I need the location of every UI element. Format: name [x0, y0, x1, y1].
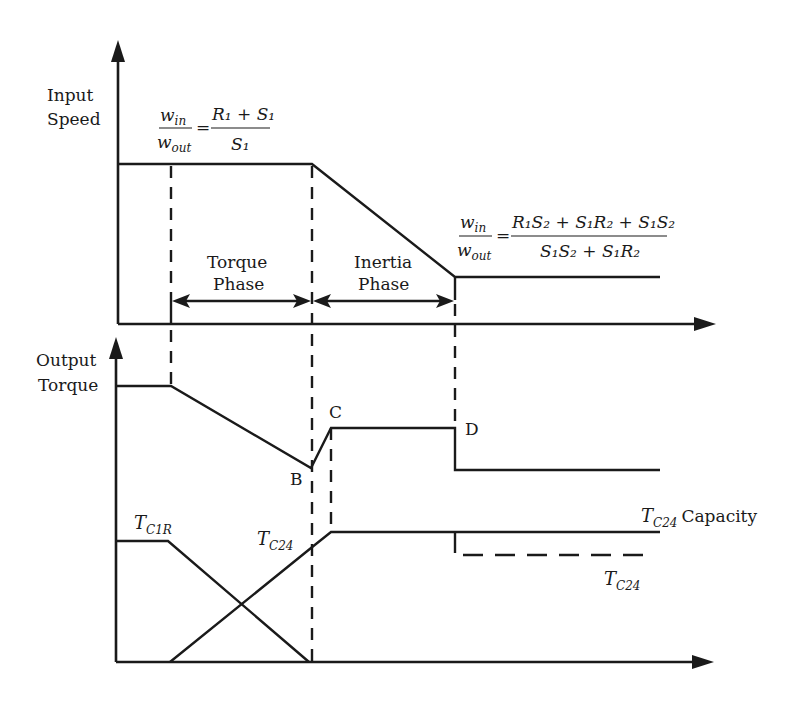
tc1r-label: TC1R	[134, 512, 172, 537]
inertia-phase-label-line2: Phase	[358, 274, 409, 294]
tc24-capacity-label: TC24Capacity	[641, 505, 757, 530]
svg-text:S₁S₂ + S₁R₂: S₁S₂ + S₁R₂	[540, 241, 640, 261]
svg-text:R₁ + S₁: R₁ + S₁	[211, 104, 275, 124]
torque-axis-label-line1: Output	[36, 350, 97, 370]
tc24-capacity-curve	[170, 532, 660, 662]
bottom-panel: Output Torque B C D TC1R TC24 TC24Capaci…	[36, 337, 757, 669]
svg-text:win: win	[160, 105, 186, 128]
shift-diagram: Input Speed win wout = R₁ + S₁ S₁ win wo…	[0, 0, 792, 701]
torque-phase-label-line1: Torque	[207, 252, 267, 272]
torque-axis-label-line2: Torque	[38, 375, 98, 395]
inertia-phase-arrow	[313, 294, 454, 308]
svg-text:win: win	[460, 212, 486, 235]
svg-text:=: =	[196, 117, 210, 137]
y-axis-arrow-icon	[111, 40, 125, 62]
ratio-after-formula: win wout = R₁S₂ + S₁R₂ + S₁S₂ S₁S₂ + S₁R…	[457, 212, 675, 263]
svg-text:wout: wout	[157, 132, 192, 155]
point-d-label: D	[465, 419, 479, 439]
output-torque-curve	[116, 386, 660, 470]
inertia-phase-label-line1: Inertia	[354, 252, 412, 272]
speed-axis-label-line2: Speed	[47, 109, 101, 129]
svg-text:R₁S₂ + S₁R₂ + S₁S₂: R₁S₂ + S₁R₂ + S₁S₂	[511, 212, 675, 232]
torque-phase-arrow	[172, 294, 311, 308]
torque-phase-label-line2: Phase	[213, 274, 264, 294]
ratio-before-formula: win wout = R₁ + S₁ S₁	[157, 104, 275, 155]
point-b-label: B	[290, 469, 303, 489]
svg-text:=: =	[496, 225, 510, 245]
phase-boundary-guides	[171, 166, 455, 662]
point-c-label: C	[329, 402, 342, 422]
top-panel: Input Speed win wout = R₁ + S₁ S₁ win wo…	[47, 40, 716, 331]
x-axis-arrow-icon	[694, 317, 716, 331]
tc1r-curve	[116, 541, 309, 662]
tc24-dashed-label: TC24	[604, 568, 640, 593]
speed-axis-label-line1: Input	[47, 85, 93, 105]
svg-text:S₁: S₁	[231, 134, 249, 154]
x-axis-arrow-icon	[692, 655, 714, 669]
y-axis-arrow-icon	[109, 337, 123, 359]
svg-text:wout: wout	[457, 240, 492, 263]
tc24-label: TC24	[257, 528, 293, 553]
